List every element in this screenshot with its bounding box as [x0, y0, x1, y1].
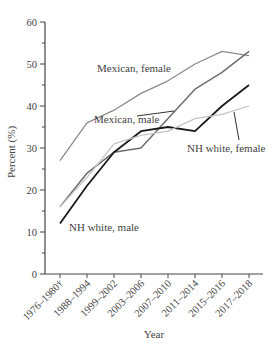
series-lines	[60, 51, 249, 223]
series-label-mexican-male: Mexican, male	[94, 113, 159, 125]
y-tick-label: 30	[27, 143, 38, 154]
y-tick-label: 20	[27, 185, 38, 196]
y-axis: 0102030405060	[27, 17, 46, 280]
y-tick-label: 40	[27, 101, 38, 112]
y-tick-label: 60	[27, 17, 38, 28]
y-tick-label: 50	[27, 59, 38, 70]
y-axis-title: Percent (%)	[5, 126, 18, 179]
x-axis: 1976–1980†1988–19941999–20022003–2006200…	[21, 274, 263, 323]
series-label-mexican-female: Mexican, female	[97, 62, 171, 74]
series-line-nh-white-male	[60, 85, 249, 224]
series-labels: Mexican, femaleMexican, maleNH white, fe…	[69, 62, 266, 233]
series-label-nh-white-female: NH white, female	[187, 142, 266, 154]
y-tick-label: 0	[32, 269, 37, 280]
x-axis-title: Year	[144, 328, 165, 340]
y-tick-label: 10	[27, 227, 38, 238]
label-leader-line	[234, 112, 239, 140]
line-chart: 0102030405060 1976–1980†1988–19941999–20…	[0, 0, 277, 356]
series-label-nh-white-male: NH white, male	[69, 221, 139, 233]
